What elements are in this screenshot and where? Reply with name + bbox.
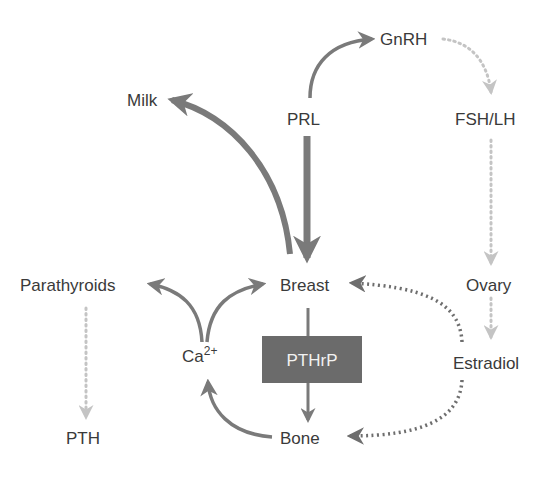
- arrow-estradiol-to-breast: [352, 283, 462, 342]
- node-pth: PTH: [66, 429, 100, 448]
- node-fsh-lh: FSH/LH: [455, 110, 515, 129]
- arrow-ca-to-breast: [207, 284, 263, 342]
- arrow-gnrh-to-fshlh: [443, 39, 491, 92]
- arrow-estradiol-to-bone: [350, 380, 462, 436]
- node-estradiol: Estradiol: [453, 354, 519, 373]
- arrow-breast-to-milk: [172, 100, 290, 254]
- arrow-bone-to-ca: [208, 382, 272, 437]
- node-breast: Breast: [280, 276, 329, 295]
- node-ovary: Ovary: [466, 276, 512, 295]
- node-milk: Milk: [127, 91, 158, 110]
- node-ca: Ca2+: [182, 344, 217, 366]
- ca-label: Ca: [182, 347, 204, 366]
- arrow-prl-to-gnrh: [310, 39, 372, 98]
- node-parathyroids: Parathyroids: [20, 276, 115, 295]
- node-pthrp: PTHrP: [287, 351, 338, 370]
- ca-superscript: 2+: [204, 344, 218, 358]
- node-bone: Bone: [280, 429, 320, 448]
- hormone-regulation-diagram: GnRH Milk PRL FSH/LH Parathyroids Breast…: [0, 0, 556, 478]
- node-prl: PRL: [287, 110, 320, 129]
- node-gnrh: GnRH: [380, 30, 427, 49]
- arrow-ca-to-parathyroids: [150, 284, 202, 342]
